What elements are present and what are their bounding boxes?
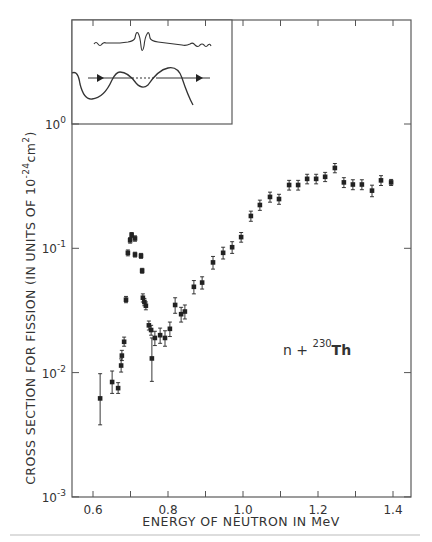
data-point	[158, 328, 163, 343]
data-point	[183, 305, 188, 319]
marker	[98, 396, 103, 401]
marker	[305, 177, 310, 182]
data-point	[258, 200, 263, 210]
marker	[128, 238, 133, 243]
marker	[122, 339, 127, 344]
x-tick-label: 1.4	[383, 503, 402, 517]
marker	[342, 180, 347, 185]
data-point	[173, 298, 178, 314]
data-point	[379, 176, 384, 186]
data-point	[110, 371, 115, 393]
data-point	[333, 164, 338, 173]
data-point	[221, 247, 226, 259]
marker	[389, 180, 394, 185]
y-tick-label: 10-3	[42, 488, 66, 505]
marker	[379, 178, 384, 183]
marker	[150, 356, 155, 361]
marker	[249, 214, 254, 219]
marker	[211, 260, 216, 265]
marker	[139, 254, 144, 259]
data-point	[128, 238, 133, 244]
data-point	[133, 236, 138, 241]
y-tick-label: 10-1	[42, 239, 66, 256]
data-point	[140, 268, 145, 273]
inset-barrier-diagram	[72, 20, 232, 124]
marker	[351, 182, 356, 187]
marker	[200, 280, 205, 285]
data-point	[360, 180, 365, 190]
data-point	[342, 178, 347, 188]
data-point	[211, 256, 216, 269]
fission-cross-section-chart: 0.60.81.01.21.410010-110-210-3 n + 230Th…	[0, 0, 432, 542]
data-point	[305, 174, 310, 184]
isotope-mass: 230	[313, 338, 332, 349]
marker	[221, 251, 226, 256]
marker	[314, 177, 319, 182]
marker	[158, 333, 163, 338]
data-point	[98, 374, 103, 425]
data-point	[168, 322, 173, 336]
marker	[153, 336, 158, 341]
marker	[144, 303, 149, 308]
marker	[110, 380, 115, 385]
data-point	[116, 383, 121, 394]
data-point	[133, 252, 138, 257]
data-point	[268, 192, 273, 202]
marker	[277, 197, 282, 202]
data-point	[239, 233, 244, 243]
data-point	[370, 185, 375, 197]
data-point	[139, 253, 144, 258]
marker	[149, 328, 154, 333]
marker	[268, 195, 273, 200]
reaction-label: n + 230Th	[283, 338, 351, 358]
data-point	[287, 180, 292, 190]
data-point	[122, 337, 127, 346]
y-tick-label: 100	[45, 115, 66, 132]
marker	[323, 175, 328, 180]
marker	[258, 203, 263, 208]
x-axis-label: ENERGY OF NEUTRON IN MeV	[142, 514, 339, 529]
data-point	[277, 194, 282, 204]
data-point	[200, 277, 205, 289]
marker	[124, 297, 129, 302]
x-tick-label: 0.6	[83, 503, 102, 517]
data-point	[323, 172, 328, 181]
data-point	[153, 331, 158, 345]
data-points	[98, 164, 394, 425]
marker	[133, 236, 138, 241]
data-point	[124, 296, 129, 302]
y-axis-label: CROSS SECTION FOR FISSION (IN UNITS OF 1…	[21, 131, 38, 485]
marker	[116, 386, 121, 391]
marker	[192, 285, 197, 290]
marker	[120, 353, 125, 358]
marker	[119, 363, 124, 368]
marker	[140, 268, 145, 273]
marker	[239, 235, 244, 240]
data-point	[314, 174, 319, 184]
data-point	[230, 242, 235, 254]
marker	[173, 303, 178, 308]
data-point	[163, 331, 168, 346]
data-point	[351, 180, 356, 190]
data-point	[126, 250, 131, 256]
marker	[370, 188, 375, 193]
marker	[126, 251, 131, 256]
marker	[296, 183, 301, 188]
data-point	[389, 179, 394, 185]
data-point	[296, 180, 301, 190]
marker	[168, 327, 173, 332]
data-point	[150, 338, 155, 381]
data-point	[249, 211, 254, 221]
y-tick-label: 10-2	[42, 364, 66, 381]
marker	[183, 309, 188, 314]
marker	[333, 166, 338, 171]
marker	[230, 245, 235, 250]
inset-frame	[72, 20, 232, 124]
marker	[133, 252, 138, 257]
data-point	[192, 281, 197, 294]
marker	[360, 182, 365, 187]
marker	[163, 336, 168, 341]
marker	[287, 183, 292, 188]
